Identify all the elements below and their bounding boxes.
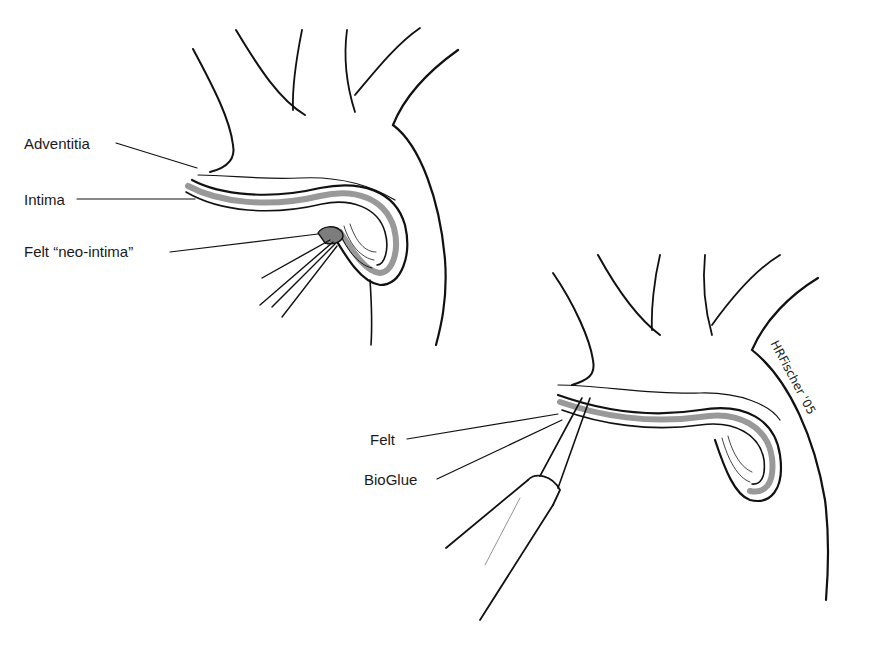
label-felt: Felt (370, 432, 395, 447)
label-bioglue: BioGlue (364, 472, 417, 487)
label-adventitia: Adventitia (24, 136, 90, 151)
right-aorta-outline (553, 255, 828, 600)
left-forceps (260, 240, 337, 317)
right-dissection-flap (558, 395, 781, 501)
aorta-illustration (0, 0, 874, 656)
left-dissection-flap (186, 180, 407, 285)
bioglue-applicator (446, 398, 590, 620)
label-intima: Intima (24, 192, 65, 207)
label-felt-neo-intima: Felt “neo-intima” (24, 244, 133, 259)
felt-neo-intima-shape (318, 227, 343, 244)
